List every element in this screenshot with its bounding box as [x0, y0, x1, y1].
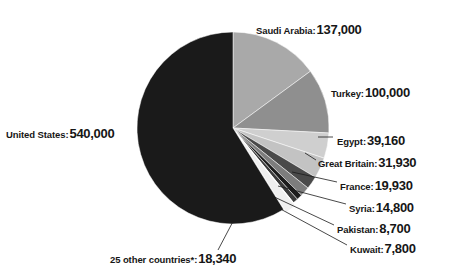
pie-label-other-countries: 25 other countries*:18,340 — [110, 250, 236, 266]
pie-label-syria-name: Syria: — [349, 203, 375, 214]
pie-label-france-name: France: — [340, 181, 374, 192]
pie-label-egypt-name: Egypt: — [337, 136, 366, 147]
pie-label-other-countries-name: 25 other countries*: — [110, 254, 197, 265]
pie-label-great-britain: Great Britain:31,930 — [318, 154, 416, 170]
pie-label-syria-value: 14,800 — [376, 200, 414, 215]
pie-slice-group — [137, 32, 329, 224]
pie-label-kuwait-value: 7,800 — [385, 241, 416, 256]
leader-line-kuwait — [262, 199, 347, 245]
pie-label-kuwait: Kuwait:7,800 — [350, 240, 416, 256]
pie-label-united-states: United States:540,000 — [6, 125, 114, 141]
pie-label-pakistan-value: 8,700 — [379, 221, 410, 236]
pie-label-great-britain-name: Great Britain: — [318, 158, 377, 169]
chart-canvas: 2010 –11 Saudi Arabia:137,000 Turkey:100… — [0, 0, 451, 273]
pie-label-other-countries-value: 18,340 — [198, 251, 236, 266]
pie-label-france-value: 19,930 — [375, 178, 413, 193]
pie-label-saudi-arabia-name: Saudi Arabia: — [256, 25, 316, 36]
pie-label-kuwait-name: Kuwait: — [350, 244, 384, 255]
pie-label-egypt: Egypt:39,160 — [337, 132, 405, 148]
pie-label-turkey-name: Turkey: — [331, 88, 364, 99]
pie-label-pakistan: Pakistan:8,700 — [337, 220, 410, 236]
pie-label-pakistan-name: Pakistan: — [337, 224, 378, 235]
pie-label-syria: Syria:14,800 — [349, 199, 414, 215]
pie-label-france: France:19,930 — [340, 177, 413, 193]
pie-label-united-states-value: 540,000 — [69, 126, 114, 141]
pie-label-saudi-arabia: Saudi Arabia:137,000 — [256, 21, 362, 37]
pie-label-united-states-name: United States: — [6, 129, 68, 140]
pie-label-saudi-arabia-value: 137,000 — [317, 22, 362, 37]
pie-label-turkey: Turkey:100,000 — [331, 84, 410, 100]
pie-label-egypt-value: 39,160 — [367, 133, 405, 148]
pie-label-great-britain-value: 31,930 — [378, 155, 416, 170]
pie-label-turkey-value: 100,000 — [365, 85, 410, 100]
